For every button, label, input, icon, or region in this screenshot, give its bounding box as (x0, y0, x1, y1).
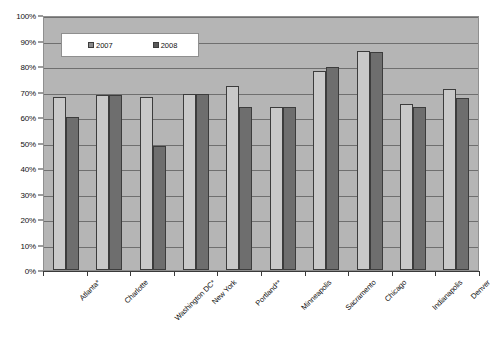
x-axis-tick-mark (130, 271, 131, 276)
x-axis-tick-mark (305, 271, 306, 276)
y-axis-tick-label: 90% (21, 37, 36, 46)
bar-2007 (183, 94, 196, 270)
bar-2008 (283, 107, 296, 270)
bar-2007 (443, 89, 456, 270)
x-axis-tick-mark (217, 271, 218, 276)
y-axis-tick-label: 50% (21, 139, 36, 148)
chart-legend: 20072008 (61, 33, 199, 57)
y-axis: 0%10%20%30%40%50%60%70%80%90%100% (0, 16, 43, 271)
bar-group (261, 17, 304, 270)
bar-2008 (196, 94, 209, 270)
bar-2007 (226, 86, 239, 270)
x-axis-tick-mark (479, 271, 480, 276)
bar-2008 (153, 146, 166, 270)
bar-2007 (357, 51, 370, 270)
legend-entry: 2007 (88, 41, 113, 50)
x-axis-tick-mark (174, 271, 175, 276)
y-axis-tick-label: 40% (21, 165, 36, 174)
y-axis-tick-label: 30% (21, 190, 36, 199)
x-axis-category-label: Sacramento (344, 278, 378, 312)
y-axis-tick-label: 60% (21, 114, 36, 123)
bar-2007 (53, 97, 66, 270)
x-axis-ticks (43, 271, 479, 276)
x-axis-category-label: Atlanta* (77, 278, 101, 302)
bar-2007 (313, 71, 326, 270)
y-axis-tick-label: 80% (21, 63, 36, 72)
bar-group (391, 17, 434, 270)
plot-area: 20072008 (43, 16, 479, 271)
x-axis-category-label: Denver (469, 278, 492, 301)
x-axis-tick-mark (261, 271, 262, 276)
bar-group (435, 17, 478, 270)
bar-2008 (66, 117, 79, 270)
bar-2007 (270, 107, 283, 270)
y-axis-tick-label: 20% (21, 216, 36, 225)
x-axis-category-label: Portland** (254, 278, 284, 308)
y-axis-tick-label: 0% (25, 267, 36, 276)
y-axis-tick-label: 100% (16, 12, 36, 21)
legend-label: 2007 (96, 41, 113, 50)
bar-2007 (96, 95, 109, 270)
legend-label: 2008 (161, 41, 178, 50)
bar-group (304, 17, 347, 270)
bar-group (348, 17, 391, 270)
legend-swatch-2007 (88, 42, 94, 48)
legend-entry: 2008 (153, 41, 178, 50)
x-axis-tick-mark (348, 271, 349, 276)
x-axis-tick-mark (87, 271, 88, 276)
y-axis-tick-label: 70% (21, 88, 36, 97)
y-axis-tick-label: 10% (21, 241, 36, 250)
x-axis-category-label: Minneapolis (299, 278, 333, 312)
bar-2008 (239, 107, 252, 270)
bar-2008 (109, 95, 122, 270)
x-axis-category-label: Indianapolis (430, 278, 464, 312)
x-axis-category-label: Charlotte (123, 278, 150, 305)
bar-2007 (400, 104, 413, 270)
bar-2008 (326, 67, 339, 270)
x-axis-tick-mark (43, 271, 44, 276)
bar-2008 (456, 98, 469, 270)
x-axis-labels: Atlanta*CharlotteWashington DC*New YorkP… (43, 278, 479, 342)
bar-2007 (140, 97, 153, 270)
bar-2008 (370, 52, 383, 270)
x-axis-tick-mark (392, 271, 393, 276)
legend-swatch-2008 (153, 42, 159, 48)
bar-2008 (413, 107, 426, 270)
x-axis-tick-mark (435, 271, 436, 276)
x-axis-category-label: Chicago (383, 278, 408, 303)
bar-group (218, 17, 261, 270)
